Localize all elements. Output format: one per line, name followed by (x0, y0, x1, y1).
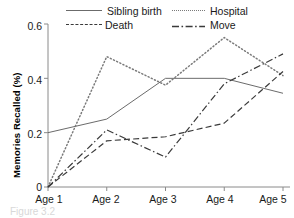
figure-container: Sibling birth Hospital Death Move (0, 0, 294, 218)
series-line-hospital[interactable] (48, 38, 283, 187)
series-line-death[interactable] (48, 72, 283, 187)
figure-caption: Figure 3.2 (10, 206, 55, 217)
x-axis-ticks (48, 187, 283, 191)
axes (44, 24, 290, 191)
series-line-sibling-birth[interactable] (48, 78, 283, 132)
y-axis-ticks (44, 24, 48, 187)
chart-series-layer (48, 38, 283, 187)
series-line-move[interactable] (48, 54, 283, 187)
chart-plot-area (0, 0, 294, 218)
